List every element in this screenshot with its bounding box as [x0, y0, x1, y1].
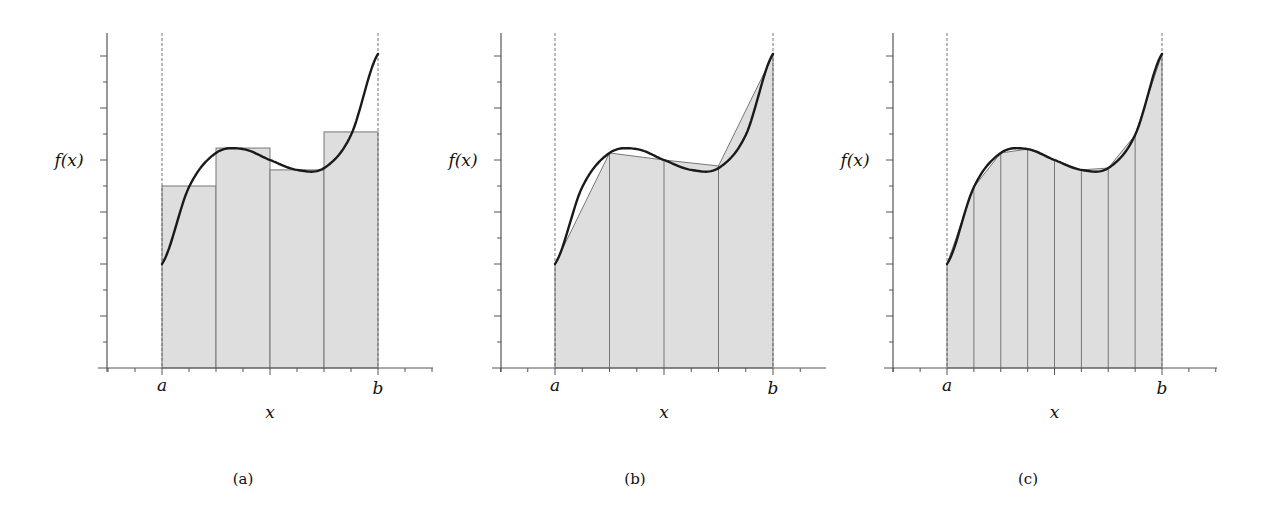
- approximation-rectangle: [270, 170, 324, 368]
- a-label: a: [157, 375, 167, 395]
- b-label: b: [768, 378, 779, 398]
- panel-a: f(x)abx(a): [52, 33, 433, 488]
- integration-approximation-figure: f(x)abx(a) f(x)abx(b) f(x)abx(c): [0, 0, 1269, 513]
- b-label: b: [373, 378, 384, 398]
- panel-c: f(x)abx(c): [838, 33, 1217, 488]
- x-axis-label: x: [1050, 402, 1060, 422]
- panel-caption: (c): [1018, 470, 1038, 488]
- approximation-rectangle: [216, 148, 270, 368]
- y-axis-label: f(x): [52, 150, 83, 170]
- approximation-rectangle: [162, 186, 216, 368]
- x-axis-label: x: [265, 402, 275, 422]
- approximation-rectangle: [324, 132, 378, 368]
- a-label: a: [550, 375, 560, 395]
- y-axis-label: f(x): [446, 150, 477, 170]
- panel-b: f(x)abx(b): [446, 33, 826, 488]
- a-label: a: [942, 375, 952, 395]
- y-axis-label: f(x): [838, 150, 869, 170]
- x-axis-label: x: [659, 402, 669, 422]
- panel-caption: (b): [624, 470, 645, 488]
- b-label: b: [1157, 378, 1168, 398]
- panel-caption: (a): [233, 470, 254, 488]
